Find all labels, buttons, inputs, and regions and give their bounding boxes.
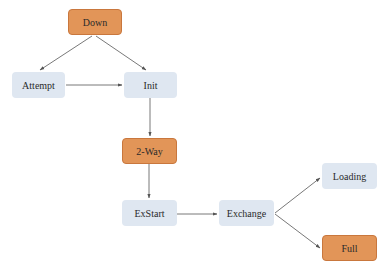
node-attempt: Attempt — [12, 72, 65, 98]
edge-down-init — [96, 36, 146, 70]
node-down: Down — [68, 9, 122, 35]
node-full: Full — [322, 235, 377, 261]
edge-exchange-full — [275, 214, 320, 248]
edges-layer — [0, 0, 387, 273]
node-exchange: Exchange — [219, 200, 274, 226]
node-init: Init — [124, 72, 177, 98]
node-exstart: ExStart — [122, 200, 177, 226]
edge-exchange-loading — [275, 178, 320, 213]
node-loading: Loading — [322, 163, 377, 189]
node-2-way: 2-Way — [122, 138, 177, 164]
edge-down-attempt — [40, 36, 92, 70]
